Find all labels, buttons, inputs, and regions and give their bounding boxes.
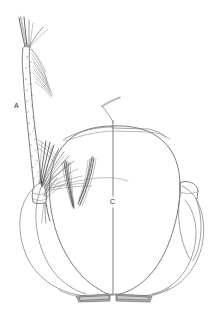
label-a: A [14, 102, 19, 109]
antenna-speckles [25, 56, 39, 183]
antenna-comb-setae [31, 49, 52, 97]
figure-canvas: A C [0, 0, 224, 315]
dorsal-seta [102, 97, 121, 122]
maxillary-palp [179, 182, 201, 262]
antennal-seta-tuft [39, 141, 128, 223]
frontal-setae-tuft-right [78, 156, 96, 206]
label-c: C [110, 198, 115, 205]
antenna-apical-setae [19, 16, 48, 48]
line-drawing-svg: A C [0, 0, 224, 315]
